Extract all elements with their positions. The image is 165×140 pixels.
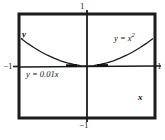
tick-label-top: 1 bbox=[80, 2, 85, 11]
plot-canvas bbox=[0, 0, 165, 140]
tick-label-left: −1 bbox=[3, 62, 13, 71]
math-figure: 1 −1 −1 1 y x y = x2 y = 0.01x bbox=[0, 0, 165, 140]
parabola-equation-text: y = x bbox=[114, 33, 132, 43]
line-equation-label: y = 0.01x bbox=[26, 70, 58, 79]
tick-label-bottom: −1 bbox=[79, 121, 89, 130]
parabola-equation-label: y = x2 bbox=[114, 32, 135, 42]
x-axis-label: x bbox=[138, 93, 143, 102]
y-axis-label: y bbox=[22, 30, 26, 39]
parabola-exponent: 2 bbox=[132, 31, 135, 38]
tick-label-right: 1 bbox=[157, 62, 162, 71]
